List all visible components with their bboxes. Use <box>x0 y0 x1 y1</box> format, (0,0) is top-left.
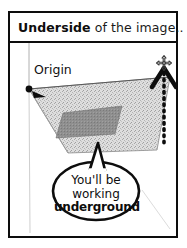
vertical-axis-line <box>29 43 30 233</box>
figure-root: Underside of the image.. Origin You'll b… <box>0 0 187 248</box>
title-box: Underside of the image.. <box>8 11 178 43</box>
origin-label: Origin <box>34 62 72 77</box>
image-plane-underside <box>29 77 170 153</box>
title-emphasis: Underside <box>18 20 91 35</box>
speech-bubble <box>53 143 139 220</box>
four-way-move-icon <box>155 54 173 72</box>
guide-line-bottom-right <box>142 190 170 229</box>
title-rest: of the image.. <box>91 20 184 35</box>
origin-dot-icon <box>26 86 33 93</box>
page-title: Underside of the image.. <box>18 20 184 35</box>
